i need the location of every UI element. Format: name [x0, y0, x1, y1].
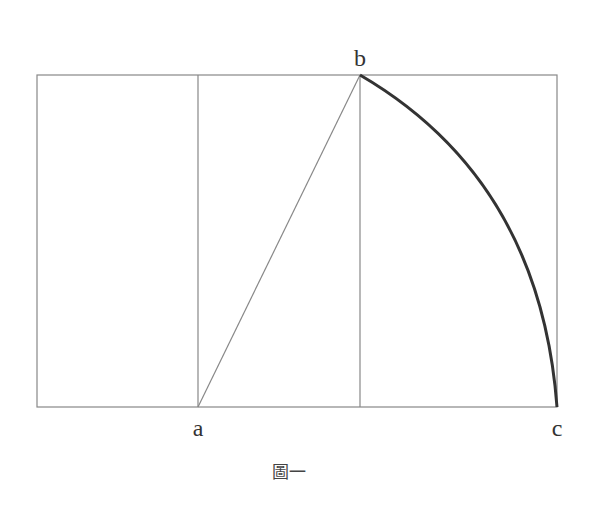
label-c: c	[552, 415, 563, 441]
arc-bc	[360, 75, 557, 407]
figure-caption: 圖一	[272, 462, 306, 482]
label-b: b	[354, 45, 366, 71]
golden-rectangle-diagram: b a c 圖一	[0, 0, 590, 518]
label-a: a	[193, 415, 204, 441]
outer-rectangle	[37, 75, 557, 407]
diagonal-ab	[198, 75, 360, 407]
